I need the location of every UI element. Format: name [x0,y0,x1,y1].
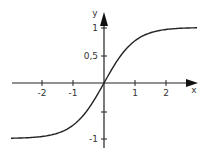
chart-canvas: -2 -1 1 2 x 1 0,5 -1 y [0,0,207,152]
y-tick-label: -1 [89,134,98,144]
x-axis-label: x [191,85,197,95]
y-axis-label: y [92,8,98,18]
chart: -2 -1 1 2 x 1 0,5 -1 y [0,0,207,152]
x-tick-label: 2 [163,88,169,98]
x-tick-label: -2 [38,88,47,98]
y-tick-label: 0,5 [84,51,98,61]
y-tick-label: 1 [92,23,98,33]
y-axis-arrow-icon [100,12,108,26]
x-tick-label: -1 [69,88,78,98]
x-tick-label: 1 [132,88,138,98]
